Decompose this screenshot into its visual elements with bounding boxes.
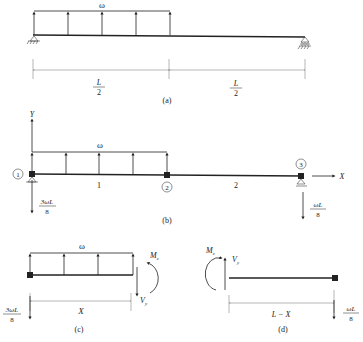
panel-a: ω L 2 L [27, 0, 311, 105]
shear-label: Vy [232, 255, 240, 265]
dim-x-label: X [77, 306, 84, 316]
dim-left-fraction: L 2 [93, 78, 105, 97]
load-label: ω [99, 0, 105, 10]
svg-text:ωL: ωL [314, 201, 323, 209]
reaction-right-fraction: ωL 8 [310, 201, 326, 219]
caption-d: (d) [278, 325, 288, 334]
node-1-label: 1 [13, 169, 23, 179]
svg-text:L: L [96, 78, 102, 87]
node-marker [27, 272, 33, 278]
caption-b: (b) [162, 216, 172, 225]
svg-text:2: 2 [165, 184, 169, 192]
svg-text:ωL: ωL [347, 305, 356, 313]
beam [33, 35, 305, 37]
roller-support-icon [296, 179, 307, 186]
roller-support-icon [298, 37, 311, 49]
moment-arc-icon [148, 263, 158, 293]
svg-text:8: 8 [316, 211, 320, 219]
node-2-marker [164, 172, 170, 178]
svg-text:8: 8 [349, 315, 353, 323]
svg-text:3ωL: 3ωL [40, 198, 53, 206]
svg-text:2: 2 [97, 88, 101, 97]
load-label: ω [79, 241, 85, 251]
caption-a: (a) [163, 96, 172, 105]
y-axis-label: Y [30, 110, 36, 119]
beam-diagram: ω L 2 L [0, 0, 363, 342]
moment-label: Mz [149, 251, 159, 261]
svg-text:3: 3 [299, 161, 303, 169]
shear-label: Vy [140, 296, 148, 306]
node-3-marker [298, 173, 304, 179]
element-1-label: 1 [97, 181, 101, 190]
x-axis-label: X [339, 172, 346, 181]
distributed-load [32, 152, 167, 174]
svg-text:8: 8 [10, 316, 14, 324]
reaction-fraction: 3ωL 8 [3, 306, 21, 324]
node-3-label: 3 [296, 159, 306, 169]
node-marker [332, 275, 338, 281]
element-2-label: 2 [234, 181, 238, 190]
distributed-load [34, 11, 170, 35]
panel-d: Vy Mz L − X ωL 8 (d) [205, 246, 359, 334]
svg-text:L: L [233, 79, 239, 88]
panel-b: Y ω 1 2 3 1 2 [13, 110, 346, 225]
caption-c: (c) [75, 325, 84, 334]
node-2-label: 2 [162, 182, 172, 192]
pin-support-icon [27, 36, 40, 44]
reaction-left-fraction: 3ωL 8 [39, 198, 56, 216]
dim-right-fraction: L 2 [230, 79, 242, 98]
svg-text:2: 2 [234, 89, 238, 98]
load-label: ω [97, 140, 103, 150]
moment-arc-icon [205, 258, 221, 290]
moment-label: Mz [205, 246, 215, 256]
svg-text:3ωL: 3ωL [5, 306, 18, 314]
distributed-load [30, 253, 133, 275]
panel-c: ω Vy Mz X 3ωL 8 (c) [3, 241, 159, 334]
dim-label: L − X [271, 310, 292, 319]
svg-text:1: 1 [16, 171, 20, 179]
reaction-fraction: ωL 8 [343, 305, 359, 323]
dimension-lines [33, 59, 305, 79]
svg-text:8: 8 [45, 208, 49, 216]
node-1-marker [29, 171, 35, 177]
